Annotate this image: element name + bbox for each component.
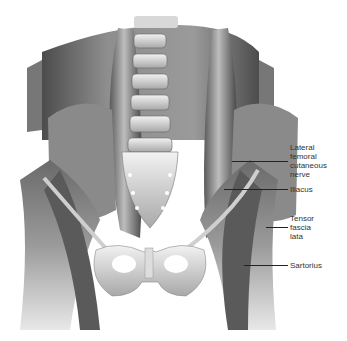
label-sartorius: Sartorius	[290, 261, 322, 270]
leader-line-sartorius	[244, 265, 288, 266]
label-lateral-femoral-cutaneous-nerve: Lateral femoral cutaneous nerve	[290, 143, 327, 179]
leader-line-lateral-femoral-cutaneous-nerve	[232, 161, 288, 162]
label-iliacus: Iliacus	[290, 185, 313, 194]
leader-line-tensor-fascia-lata	[266, 227, 288, 228]
label-tensor-fascia-lata: Tensor fascia lata	[290, 214, 314, 241]
leader-line-iliacus	[224, 189, 288, 190]
